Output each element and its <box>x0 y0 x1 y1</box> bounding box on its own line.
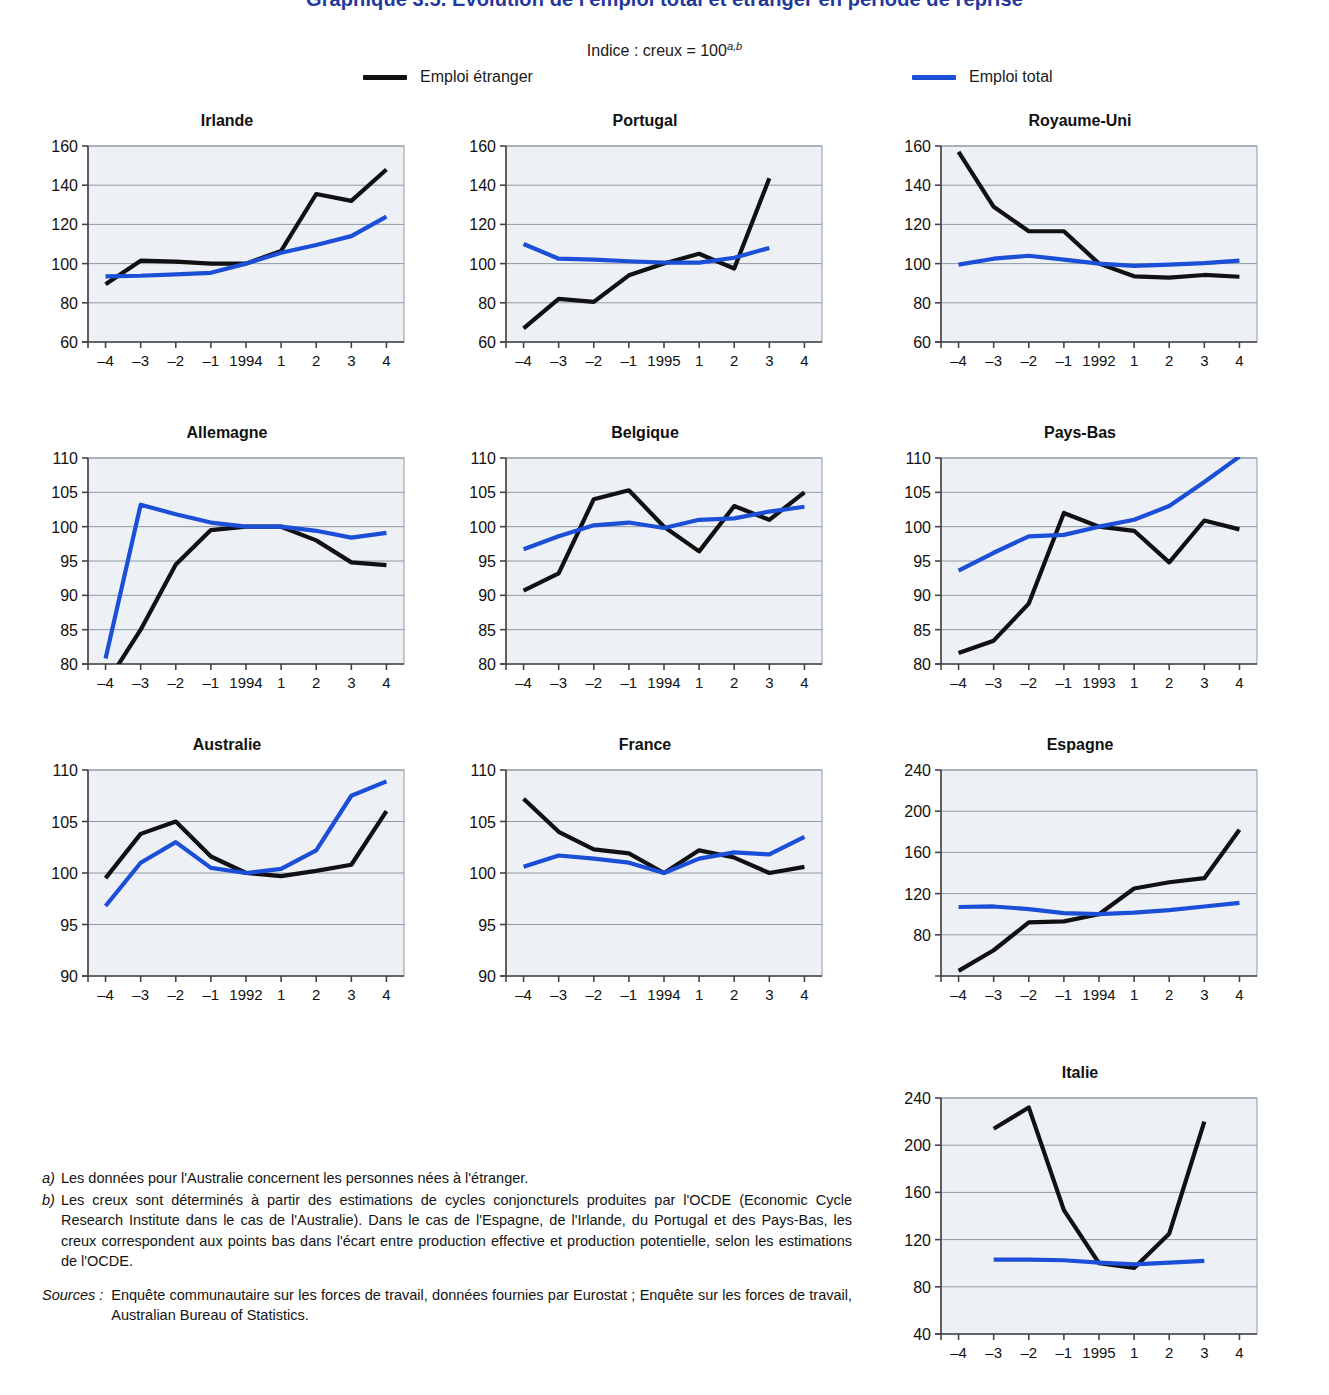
figure-title: Graphique 3.5. Évolution de l'emploi tot… <box>0 0 1329 11</box>
figure-page: Graphique 3.5. Évolution de l'emploi tot… <box>0 0 1329 1395</box>
x-tick-label: 3 <box>347 352 355 369</box>
y-tick-label: 95 <box>478 553 496 570</box>
y-tick-label: 105 <box>51 484 78 501</box>
y-tick-label: 90 <box>60 968 78 985</box>
figure-notes: a) Les données pour l'Australie concerne… <box>42 1168 852 1326</box>
x-tick-label: –3 <box>985 986 1002 1003</box>
y-tick-label: 240 <box>904 1090 931 1107</box>
x-tick-label: 1 <box>1130 1344 1138 1361</box>
x-tick-label: –3 <box>550 674 567 691</box>
y-tick-label: 110 <box>470 762 496 779</box>
x-tick-label: 1992 <box>1082 352 1115 369</box>
x-tick-label: 1 <box>277 674 285 691</box>
y-tick-label: 160 <box>469 138 496 155</box>
y-tick-label: 90 <box>913 587 931 604</box>
x-tick-label: 1 <box>695 986 703 1003</box>
x-tick-label: 2 <box>312 674 320 691</box>
x-tick-label: 1994 <box>229 352 262 369</box>
y-tick-label: 95 <box>478 917 496 934</box>
y-tick-label: 80 <box>60 295 78 312</box>
legend-swatch-emploi-total <box>912 75 956 80</box>
chart-title-australie: Australie <box>42 736 412 754</box>
x-tick-label: –3 <box>985 674 1002 691</box>
y-tick-label: 105 <box>469 484 496 501</box>
x-tick-label: –1 <box>621 674 638 691</box>
x-tick-label: –2 <box>167 674 184 691</box>
x-tick-label: –3 <box>132 674 149 691</box>
x-tick-label: 2 <box>1165 1344 1173 1361</box>
y-tick-label: 80 <box>478 656 496 673</box>
chart-panel-australie: Australie9095100105110–4–3–2–119921234 <box>42 736 412 1006</box>
x-tick-label: 1994 <box>647 986 680 1003</box>
x-tick-label: 3 <box>1200 1344 1208 1361</box>
y-tick-label: 60 <box>913 334 931 351</box>
legend-label-emploi-total: Emploi total <box>969 68 1053 86</box>
plot-svg-italie: 4080120160200240–4–3–2–119951234 <box>895 1088 1265 1364</box>
y-tick-label: 105 <box>469 814 496 831</box>
x-tick-label: 1 <box>1130 352 1138 369</box>
x-tick-label: –1 <box>621 352 638 369</box>
x-tick-label: –4 <box>515 352 532 369</box>
note-a-key: a) <box>42 1168 61 1189</box>
chart-panel-portugal: Portugal6080100120140160–4–3–2–119951234 <box>460 112 830 372</box>
x-tick-label: –2 <box>585 986 602 1003</box>
x-tick-label: 4 <box>1235 674 1243 691</box>
sources-text: Enquête communautaire sur les forces de … <box>111 1285 852 1326</box>
y-tick-label: 80 <box>913 1279 931 1296</box>
plot-area-france: 9095100105110–4–3–2–119941234 <box>460 760 830 1006</box>
legend-swatch-emploi-etranger <box>363 75 407 80</box>
x-tick-label: –4 <box>950 986 967 1003</box>
x-tick-label: 3 <box>1200 986 1208 1003</box>
y-tick-label: 100 <box>904 256 931 273</box>
x-tick-label: 1 <box>1130 674 1138 691</box>
x-tick-label: 1 <box>277 352 285 369</box>
chart-panel-royaume-uni: Royaume-Uni6080100120140160–4–3–2–119921… <box>895 112 1265 372</box>
x-tick-label: 1 <box>695 352 703 369</box>
x-tick-label: 2 <box>1165 986 1173 1003</box>
chart-panel-france: France9095100105110–4–3–2–119941234 <box>460 736 830 1006</box>
x-tick-label: 4 <box>382 352 390 369</box>
chart-panel-belgique: Belgique80859095100105110–4–3–2–11994123… <box>460 424 830 694</box>
x-tick-label: 3 <box>347 986 355 1003</box>
subtitle-text: Indice : creux = 100 <box>587 42 727 59</box>
figure-legend: Emploi étranger Emploi total <box>0 68 1329 92</box>
x-tick-label: –4 <box>515 674 532 691</box>
note-b-key: b) <box>42 1190 61 1272</box>
x-tick-label: –2 <box>1020 986 1037 1003</box>
x-tick-label: 1 <box>277 986 285 1003</box>
y-tick-label: 85 <box>913 622 931 639</box>
y-tick-label: 60 <box>478 334 496 351</box>
figure-sources: Sources : Enquête communautaire sur les … <box>42 1285 852 1326</box>
plot-svg-allemagne: 80859095100105110–4–3–2–119941234 <box>42 448 412 694</box>
y-tick-label: 240 <box>904 762 931 779</box>
chart-panel-allemagne: Allemagne80859095100105110–4–3–2–1199412… <box>42 424 412 694</box>
figure-subtitle: Indice : creux = 100a,b <box>0 40 1329 60</box>
y-tick-label: 95 <box>60 553 78 570</box>
x-tick-label: –2 <box>1020 1344 1037 1361</box>
chart-title-espagne: Espagne <box>895 736 1265 754</box>
plot-svg-pays-bas: 80859095100105110–4–3–2–119931234 <box>895 448 1265 694</box>
sources-key: Sources : <box>42 1285 111 1326</box>
subtitle-footnote-refs: a,b <box>727 40 742 52</box>
chart-panel-pays-bas: Pays-Bas80859095100105110–4–3–2–11993123… <box>895 424 1265 694</box>
x-tick-label: 3 <box>347 674 355 691</box>
x-tick-label: 3 <box>765 674 773 691</box>
x-tick-label: –2 <box>585 352 602 369</box>
plot-area-pays-bas: 80859095100105110–4–3–2–119931234 <box>895 448 1265 694</box>
chart-panel-italie: Italie4080120160200240–4–3–2–119951234 <box>895 1064 1265 1364</box>
y-tick-label: 90 <box>478 968 496 985</box>
y-tick-label: 120 <box>51 216 78 233</box>
y-tick-label: 105 <box>904 484 931 501</box>
chart-title-pays-bas: Pays-Bas <box>895 424 1265 442</box>
x-tick-label: –2 <box>167 352 184 369</box>
y-tick-label: 110 <box>52 450 78 467</box>
x-tick-label: 1994 <box>1082 986 1115 1003</box>
x-tick-label: –1 <box>203 674 220 691</box>
plot-svg-portugal: 6080100120140160–4–3–2–119951234 <box>460 136 830 372</box>
chart-title-italie: Italie <box>895 1064 1265 1082</box>
y-tick-label: 160 <box>904 1184 931 1201</box>
plot-area-italie: 4080120160200240–4–3–2–119951234 <box>895 1088 1265 1364</box>
x-tick-label: 2 <box>730 986 738 1003</box>
plot-svg-royaume-uni: 6080100120140160–4–3–2–119921234 <box>895 136 1265 372</box>
x-tick-label: –1 <box>203 352 220 369</box>
